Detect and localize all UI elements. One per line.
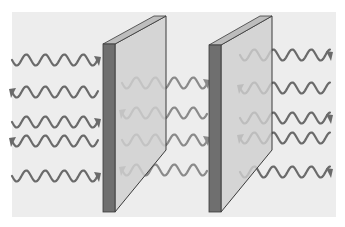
casimir-diagram bbox=[0, 0, 345, 227]
plate-front-edge bbox=[103, 44, 115, 212]
plate-front-edge bbox=[209, 45, 221, 212]
background-panel bbox=[12, 12, 336, 217]
